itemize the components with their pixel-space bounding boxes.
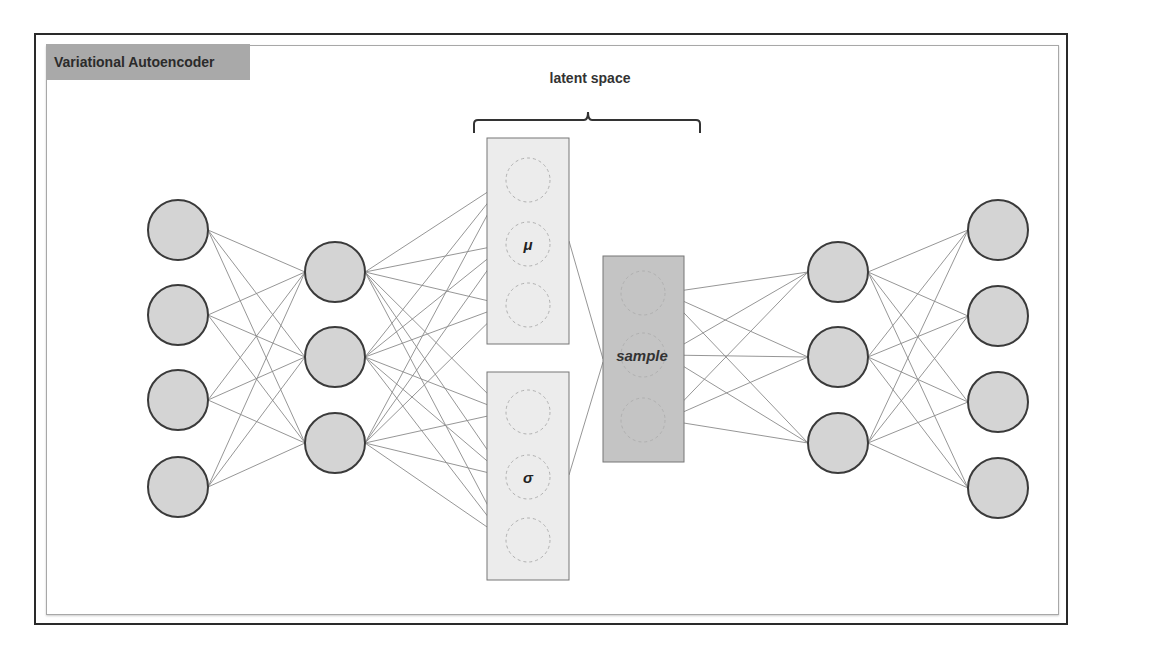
- decoder-hidden-node: [808, 327, 868, 387]
- edge: [208, 357, 305, 487]
- edge: [208, 272, 305, 315]
- mu-label: μ: [522, 236, 532, 253]
- output-node: [968, 286, 1028, 346]
- encoder-hidden-node: [305, 327, 365, 387]
- edge: [665, 272, 808, 293]
- edge: [665, 357, 808, 420]
- decoder-hidden-node: [808, 242, 868, 302]
- decoder-hidden-node: [808, 413, 868, 473]
- input-node: [148, 285, 208, 345]
- latent-space-brace: [474, 112, 700, 133]
- edge: [208, 272, 305, 400]
- edge: [208, 443, 305, 487]
- edge: [665, 355, 808, 357]
- edge: [868, 230, 968, 443]
- edge: [665, 293, 808, 357]
- input-node: [148, 200, 208, 260]
- edge: [868, 402, 968, 443]
- output-node: [968, 200, 1028, 260]
- edge: [208, 230, 305, 272]
- edge: [665, 272, 808, 355]
- edge: [868, 443, 968, 488]
- edge: [569, 241, 603, 359]
- edge: [365, 244, 506, 443]
- encoder-hidden-node: [305, 242, 365, 302]
- output-node: [968, 372, 1028, 432]
- sigma-label: σ: [523, 469, 534, 486]
- encoder-hidden-node: [305, 413, 365, 473]
- input-node: [148, 370, 208, 430]
- edge: [868, 316, 968, 443]
- edge: [665, 420, 808, 443]
- nodes: [148, 158, 1028, 562]
- edge: [868, 230, 968, 272]
- edge: [569, 362, 603, 475]
- input-node: [148, 457, 208, 517]
- vae-network-diagram: μ σ sample: [0, 0, 1172, 657]
- output-node: [968, 458, 1028, 518]
- edge: [208, 272, 305, 487]
- edge: [365, 180, 506, 357]
- sample-label: sample: [616, 347, 668, 364]
- edge: [868, 230, 968, 357]
- edge: [365, 443, 506, 540]
- edge: [665, 272, 808, 420]
- edge: [365, 272, 506, 412]
